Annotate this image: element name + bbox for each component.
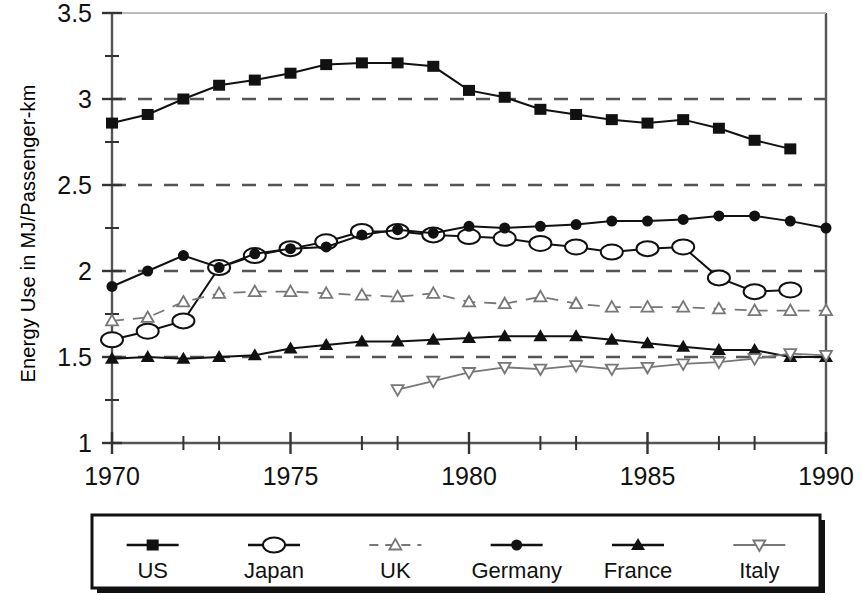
- marker-open-triangle-down: [392, 385, 404, 396]
- legend-label-italy: Italy: [739, 558, 779, 583]
- marker-filled-circle: [642, 216, 653, 227]
- marker-filled-square: [713, 123, 725, 134]
- marker-open-ellipse: [529, 236, 551, 251]
- marker-filled-square: [677, 114, 689, 125]
- y-tick-label: 2.5: [57, 171, 92, 199]
- marker-open-triangle-up: [142, 311, 154, 322]
- marker-filled-circle: [535, 221, 546, 232]
- marker-filled-circle: [713, 210, 724, 221]
- marker-filled-square: [147, 540, 159, 551]
- marker-filled-square: [642, 118, 654, 129]
- y-tick-label: 2: [78, 257, 92, 285]
- marker-filled-circle: [356, 229, 367, 240]
- marker-filled-square: [177, 94, 189, 105]
- y-tick-label: 3: [78, 85, 92, 113]
- marker-open-ellipse: [263, 538, 285, 553]
- marker-filled-circle: [678, 214, 689, 225]
- legend-label-germany: Germany: [471, 558, 561, 583]
- marker-open-triangle-up: [427, 287, 439, 298]
- energy-use-line-chart: Energy Use in MJ/Passenger-km 11.522.533…: [0, 0, 862, 595]
- marker-filled-square: [784, 143, 796, 154]
- legend-label-france: France: [604, 558, 672, 583]
- x-tick-label: 1980: [441, 462, 497, 490]
- marker-filled-square: [356, 57, 368, 68]
- chart-page: Energy Use in MJ/Passenger-km 11.522.533…: [0, 0, 862, 595]
- y-tick-label: 1.5: [57, 343, 92, 371]
- marker-filled-circle: [511, 540, 522, 551]
- marker-filled-circle: [321, 241, 332, 252]
- y-axis-label: Energy Use in MJ/Passenger-km: [17, 84, 40, 384]
- marker-filled-square: [249, 75, 261, 86]
- marker-filled-square: [606, 114, 618, 125]
- marker-filled-square: [106, 118, 118, 129]
- marker-filled-circle: [571, 219, 582, 230]
- marker-filled-circle: [499, 223, 510, 234]
- legend-label-japan: Japan: [244, 558, 304, 583]
- legend-label-us: US: [137, 558, 168, 583]
- legend-box-shadow-bottom: [97, 588, 825, 593]
- x-tick-label: 1990: [798, 462, 854, 490]
- marker-filled-circle: [142, 266, 153, 277]
- marker-open-triangle-down: [606, 365, 618, 376]
- marker-filled-circle: [464, 221, 475, 232]
- marker-open-triangle-up: [534, 291, 546, 302]
- marker-open-ellipse: [744, 284, 766, 299]
- marker-filled-square: [285, 68, 297, 79]
- marker-filled-circle: [285, 243, 296, 254]
- marker-open-triangle-down: [534, 365, 546, 376]
- marker-open-ellipse: [565, 239, 587, 254]
- marker-filled-circle: [107, 281, 118, 292]
- marker-filled-square: [320, 59, 332, 70]
- marker-filled-circle: [785, 216, 796, 227]
- marker-filled-circle: [249, 248, 260, 259]
- y-tick-label: 3.5: [57, 0, 92, 27]
- marker-open-ellipse: [172, 313, 194, 328]
- series-line-us: [112, 63, 790, 149]
- marker-filled-circle: [214, 262, 225, 273]
- marker-open-ellipse: [137, 324, 159, 339]
- legend-label-uk: UK: [380, 558, 411, 583]
- marker-open-ellipse: [672, 239, 694, 254]
- marker-open-ellipse: [708, 270, 730, 285]
- marker-filled-square: [213, 80, 225, 91]
- marker-filled-square: [749, 135, 761, 146]
- marker-filled-square: [392, 57, 404, 68]
- marker-filled-circle: [821, 223, 832, 234]
- x-tick-label: 1970: [84, 462, 140, 490]
- marker-filled-square: [570, 109, 582, 120]
- marker-open-ellipse: [637, 241, 659, 256]
- x-tick-label: 1975: [263, 462, 319, 490]
- x-tick-label: 1985: [620, 462, 676, 490]
- marker-filled-square: [534, 104, 546, 115]
- marker-open-triangle-up: [356, 289, 368, 300]
- chart-canvas: 11.522.533.519701975198019851990USJapanU…: [0, 0, 862, 595]
- marker-open-ellipse: [779, 282, 801, 297]
- marker-filled-square: [427, 61, 439, 72]
- marker-filled-square: [142, 109, 154, 120]
- legend-box: [92, 515, 820, 588]
- marker-open-ellipse: [101, 332, 123, 347]
- marker-filled-circle: [392, 224, 403, 235]
- marker-filled-square: [463, 85, 475, 96]
- marker-filled-circle: [749, 210, 760, 221]
- marker-open-triangle-up: [177, 296, 189, 307]
- marker-filled-circle: [428, 228, 439, 239]
- marker-filled-circle: [178, 250, 189, 261]
- marker-filled-square: [499, 92, 511, 103]
- legend-box-shadow: [820, 520, 825, 593]
- marker-open-ellipse: [601, 245, 623, 260]
- y-tick-label: 1: [78, 429, 92, 457]
- marker-filled-circle: [606, 216, 617, 227]
